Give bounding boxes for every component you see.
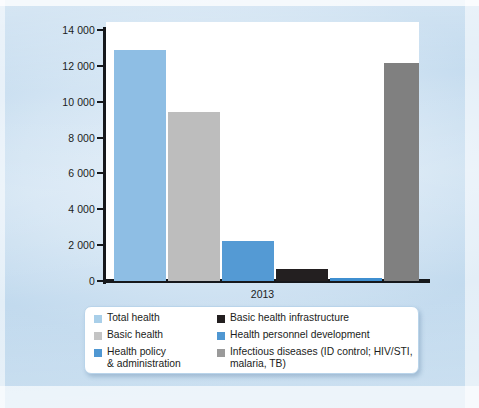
y-axis-tick bbox=[97, 172, 104, 174]
legend-item[interactable]: Basic health infrastructure bbox=[217, 312, 417, 327]
y-axis-tick-label: 2 000 bbox=[68, 239, 95, 251]
y-axis-tick bbox=[97, 101, 104, 103]
y-axis-tick-label: 14 000 bbox=[62, 24, 95, 36]
y-axis-tick-label: 12 000 bbox=[62, 60, 95, 72]
legend-item[interactable]: Health personnel development bbox=[217, 329, 417, 344]
legend-swatch-icon bbox=[94, 332, 102, 340]
bar-1 bbox=[114, 50, 166, 281]
legend-swatch-icon bbox=[94, 349, 102, 357]
legend-item[interactable]: Health policy& administration bbox=[94, 346, 216, 371]
bar-5 bbox=[330, 278, 382, 281]
page-edge-right bbox=[465, 0, 479, 408]
legend-swatch-icon bbox=[217, 332, 225, 340]
y-axis-tick-label: 6 000 bbox=[68, 167, 95, 179]
page-edge-bottom bbox=[0, 386, 479, 408]
legend-swatch-icon bbox=[217, 349, 225, 357]
legend-label: Total health bbox=[107, 312, 160, 324]
y-axis-tick bbox=[97, 208, 104, 210]
page-edge-left bbox=[0, 0, 5, 408]
bar-group bbox=[106, 30, 419, 281]
bar-4 bbox=[276, 269, 328, 281]
y-axis-tick bbox=[97, 65, 104, 67]
legend-item[interactable]: Basic health bbox=[94, 329, 216, 344]
y-axis-tick bbox=[97, 137, 104, 139]
legend-column-right: Basic health infrastructureHealth person… bbox=[217, 312, 417, 373]
legend-item[interactable]: Infectious diseases (ID control; HIV/STI… bbox=[217, 346, 417, 371]
legend-swatch-icon bbox=[94, 315, 102, 323]
bar-6 bbox=[384, 63, 419, 281]
legend-label: Basic health infrastructure bbox=[230, 312, 349, 324]
y-axis-tick-label: 8 000 bbox=[68, 132, 95, 144]
y-axis-tick bbox=[97, 244, 104, 246]
legend-label: Health policy& administration bbox=[107, 346, 181, 371]
y-axis-tick-label: 10 000 bbox=[62, 96, 95, 108]
y-axis-tick bbox=[97, 280, 104, 282]
x-axis-category-label: 2013 bbox=[106, 288, 419, 300]
legend-label: Infectious diseases (ID control; HIV/STI… bbox=[230, 346, 417, 371]
y-axis-tick-label: 0 bbox=[89, 275, 95, 287]
legend-column-left: Total healthBasic healthHealth policy& a… bbox=[94, 312, 216, 373]
legend-item[interactable]: Total health bbox=[94, 312, 216, 327]
chart-legend: Total healthBasic healthHealth policy& a… bbox=[84, 306, 419, 374]
legend-label: Health personnel development bbox=[230, 329, 370, 341]
legend-label: Basic health bbox=[107, 329, 163, 341]
y-axis-tick bbox=[97, 29, 104, 31]
legend-swatch-icon bbox=[217, 315, 225, 323]
page-edge-top bbox=[0, 0, 479, 6]
chart-figure: 14 00012 00010 0008 0006 0004 0002 0000 … bbox=[0, 0, 479, 408]
y-axis-tick-label: 4 000 bbox=[68, 203, 95, 215]
bar-3 bbox=[222, 241, 274, 281]
bar-2 bbox=[168, 112, 220, 281]
